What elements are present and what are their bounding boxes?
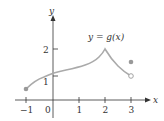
closed-point-left xyxy=(24,87,29,92)
open-point-right xyxy=(129,74,134,79)
g-curve xyxy=(26,49,131,89)
graph-svg: y x y = g(x) −1 0 1 2 3 1 2 xyxy=(0,0,164,121)
y-axis-label: y xyxy=(48,6,55,16)
closed-point-isolated xyxy=(129,60,134,65)
tick-label-x-0: 0 xyxy=(45,105,51,115)
tick-label-x-3: 3 xyxy=(129,105,135,115)
x-axis-arrow-icon xyxy=(145,98,151,103)
tick-label-x-neg1: −1 xyxy=(20,105,33,115)
function-graph: y x y = g(x) −1 0 1 2 3 1 2 xyxy=(0,0,164,121)
tick-label-x-1: 1 xyxy=(77,105,83,115)
tick-label-x-2: 2 xyxy=(103,105,109,115)
tick-label-y-2: 2 xyxy=(43,45,49,55)
function-label: y = g(x) xyxy=(87,32,125,42)
tick-label-y-1: 1 xyxy=(43,77,49,87)
x-axis-label: x xyxy=(153,95,158,105)
